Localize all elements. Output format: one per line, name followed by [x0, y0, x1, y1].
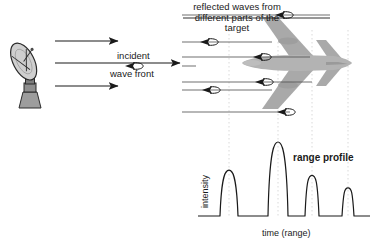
range-profile-label: range profile — [293, 152, 354, 163]
y-axis-label: intensity — [200, 175, 210, 208]
range-profile-chart — [0, 0, 376, 249]
x-axis-label: time (range) — [262, 228, 311, 238]
radar-range-profile-figure: reflected waves from different parts of … — [0, 0, 376, 249]
